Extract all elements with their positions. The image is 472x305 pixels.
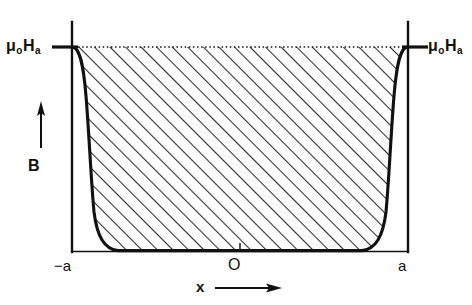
mu-subscript-right: o [438, 45, 445, 56]
h-subscript-left: a [35, 45, 41, 56]
h-subscript-right: a [457, 45, 463, 56]
x-axis-label: x [196, 279, 204, 294]
h-symbol-right: H [445, 37, 457, 54]
applied-field-label-right: μoHa [428, 38, 463, 56]
h-symbol-left: H [23, 37, 35, 54]
y-axis-label: B [28, 158, 40, 174]
b-axis-arrow [37, 101, 45, 148]
right-edge-tick-label: a [398, 258, 406, 273]
origin-label: O [228, 257, 240, 273]
hatched-field-region [70, 44, 410, 254]
x-axis-arrow [215, 284, 282, 293]
figure-container: μoHa μoHa B x O −a a [0, 0, 472, 305]
applied-field-label-left: μoHa [6, 38, 41, 56]
mu-symbol-left: μ [6, 37, 16, 54]
left-edge-tick-label: −a [54, 258, 71, 273]
mu-subscript-left: o [16, 45, 23, 56]
mu-symbol-right: μ [428, 37, 438, 54]
